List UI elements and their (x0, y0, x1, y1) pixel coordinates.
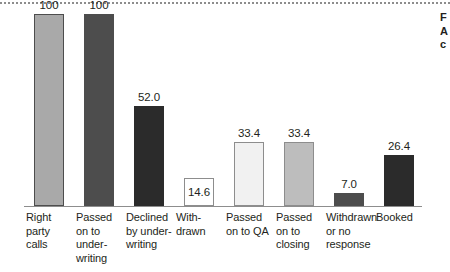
category-label-line: party (26, 225, 78, 239)
category-label: Booked (376, 211, 428, 225)
bar-wrapper: 100 (34, 14, 64, 206)
category-label: Passedon toclosing (276, 211, 328, 252)
category-label-line: closing (276, 238, 328, 252)
bar-chart-figure: 10010052.014.633.433.47.026.4 Rightparty… (0, 0, 450, 272)
bar-wrapper: 26.4 (384, 155, 414, 206)
category-label-line: writing (126, 238, 178, 252)
bar (284, 142, 314, 206)
bar (234, 142, 264, 206)
bar-wrapper: 14.6 (184, 178, 214, 206)
bar-value-label: 100 (22, 0, 76, 11)
margin-note-line: F (440, 11, 450, 25)
category-label-line: With- (176, 211, 228, 225)
margin-note-line: c (440, 38, 450, 52)
bar-value-label: 33.4 (222, 127, 276, 139)
category-label-line: Right (26, 211, 78, 225)
x-axis-category-labels: RightpartycallsPassedon tounder-writingD… (24, 211, 424, 271)
category-label-line: under- (76, 238, 128, 252)
category-label-line: writing (76, 252, 128, 266)
category-label-line: Declined (126, 211, 178, 225)
bar-wrapper: 33.4 (234, 142, 264, 206)
bar-value-label: 100 (72, 0, 126, 11)
category-label-line: response (326, 238, 378, 252)
margin-note-line: A (440, 25, 450, 39)
category-label-line: Passed (276, 211, 328, 225)
bar-value-label: 14.6 (184, 186, 214, 198)
bar-value-label: 52.0 (122, 91, 176, 103)
bar-wrapper: 100 (84, 14, 114, 206)
x-axis-baseline (24, 206, 422, 207)
category-label: Withdrawnor noresponse (326, 211, 378, 252)
category-label-line: on to (76, 225, 128, 239)
category-label: With-drawn (176, 211, 228, 238)
category-label: Passedon tounder-writing (76, 211, 128, 265)
bar-value-label: 26.4 (372, 140, 426, 152)
category-label-line: calls (26, 238, 78, 252)
category-label: Declinedby under-writing (126, 211, 178, 252)
category-label-line: drawn (176, 225, 228, 239)
bar-wrapper: 52.0 (134, 106, 164, 206)
category-label-line: by under- (126, 225, 178, 239)
category-label-line: Passed (76, 211, 128, 225)
margin-note-clipped: FAc (440, 11, 450, 52)
category-label: Rightpartycalls (26, 211, 78, 252)
bar (134, 106, 164, 206)
category-label-line: Passed (226, 211, 278, 225)
category-label-line: on to QA (226, 225, 278, 239)
bar-value-label: 7.0 (322, 178, 376, 190)
bar (334, 193, 364, 206)
bar (384, 155, 414, 206)
bar-value-label: 33.4 (272, 127, 326, 139)
bar (84, 14, 114, 206)
bar (34, 14, 64, 206)
bar-wrapper: 7.0 (334, 193, 364, 206)
category-label-line: Booked (376, 211, 428, 225)
category-label-line: on to (276, 225, 328, 239)
plot-area: 10010052.014.633.433.47.026.4 (24, 14, 420, 206)
category-label: Passedon to QA (226, 211, 278, 238)
bar-wrapper: 33.4 (284, 142, 314, 206)
category-label-line: or no (326, 225, 378, 239)
category-label-line: Withdrawn (326, 211, 378, 225)
